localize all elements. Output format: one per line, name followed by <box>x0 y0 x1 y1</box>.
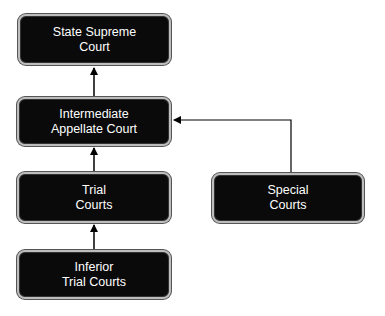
node-label-line1: Inferior <box>75 260 114 275</box>
node-label-line2: Trial Courts <box>62 275 126 290</box>
node-label-line2: Court <box>79 40 110 55</box>
node-label-line1: Special <box>268 183 309 198</box>
node-label-line2: Courts <box>270 198 307 213</box>
arrow-special-to-intermediate <box>174 120 291 173</box>
node-label-line2: Courts <box>76 198 113 213</box>
node-special-courts: Special Courts <box>212 173 364 223</box>
node-inferior-trial-courts: Inferior Trial Courts <box>17 250 171 299</box>
node-state-supreme-court: State Supreme Court <box>18 14 171 65</box>
node-label-line2: Appellate Court <box>51 122 137 137</box>
node-intermediate-appellate-court: Intermediate Appellate Court <box>17 97 171 146</box>
node-trial-courts: Trial Courts <box>17 172 171 223</box>
node-label-line1: Trial <box>82 183 106 198</box>
node-label-line1: State Supreme <box>53 25 136 40</box>
node-label-line1: Intermediate <box>59 107 128 122</box>
